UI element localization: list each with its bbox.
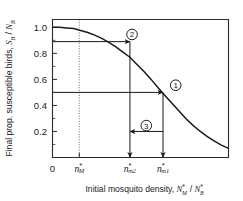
annotation-badge-label-2: 2 — [130, 30, 135, 39]
annotation-badge-label-1: 1 — [173, 81, 178, 90]
y-tick-label: 0.2 — [34, 126, 47, 137]
chart-figure: 123 0.20.40.60.81.0 0n*Mn*m2n*m1 Final p… — [0, 0, 243, 201]
y-axis-label-text: Final prop. susceptible birds, SB / NB — [4, 20, 16, 157]
y-tick-label: 0.4 — [34, 100, 47, 111]
y-tick-label: 0.6 — [34, 74, 47, 85]
x-tick-label: 0 — [50, 163, 55, 174]
annotation-badge-label-3: 3 — [144, 122, 149, 131]
y-tick-label: 0.8 — [34, 48, 47, 59]
y-axis-label: Final prop. susceptible birds, SB / NB — [4, 20, 16, 157]
y-tick-label: 1.0 — [34, 22, 47, 33]
chart-svg: 123 0.20.40.60.81.0 0n*Mn*m2n*m1 Final p… — [0, 0, 243, 201]
